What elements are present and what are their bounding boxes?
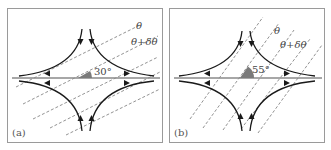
angle-label: 55° xyxy=(252,64,270,75)
theta-label: θ xyxy=(274,25,280,36)
angle-wedge xyxy=(78,71,92,78)
angle-label: 30° xyxy=(94,66,112,77)
theta-plus-dtheta-label: θ+δθ xyxy=(131,36,157,47)
panel-a: θ θ+δθ 30° (a) xyxy=(7,8,163,143)
hyperbolic-flow-diagram-b xyxy=(170,9,326,144)
panel-label: (b) xyxy=(174,127,188,138)
theta-plus-dtheta-label: θ+δθ xyxy=(280,39,306,50)
flow-arrows xyxy=(44,39,130,121)
theta-label: θ xyxy=(136,20,142,31)
panel-label: (a) xyxy=(12,127,26,138)
panel-b: θ θ+δθ 55° (b) xyxy=(169,8,325,143)
